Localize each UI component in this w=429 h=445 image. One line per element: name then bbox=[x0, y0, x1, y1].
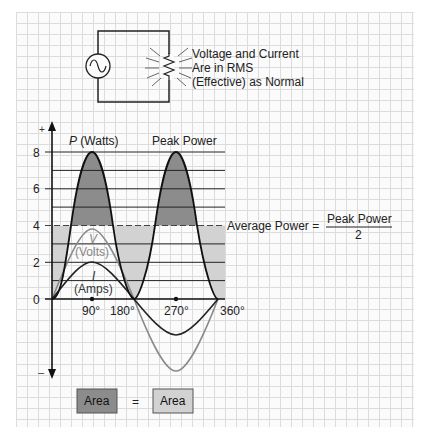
ac-source-icon bbox=[86, 54, 110, 78]
light-area-label: Area bbox=[160, 394, 186, 408]
area-legend: Area = Area bbox=[77, 389, 193, 413]
circuit-caption-line-1: Voltage and Current bbox=[192, 47, 299, 61]
x-tick-label-270: 270° bbox=[164, 304, 189, 318]
circuit-diagram: Voltage and Current Are in RMS (Effectiv… bbox=[86, 31, 304, 102]
peak-power-label: Peak Power bbox=[152, 134, 217, 148]
y-axis-plus: + bbox=[39, 124, 45, 135]
average-power-label: Average Power = bbox=[227, 219, 319, 233]
power-diagram: Voltage and Current Are in RMS (Effectiv… bbox=[0, 0, 429, 445]
y-axis-minus: – bbox=[38, 366, 45, 378]
current-label-unit: (Amps) bbox=[74, 282, 113, 296]
y-tick-0: 0 bbox=[33, 293, 40, 307]
y-tick-8: 8 bbox=[33, 146, 40, 160]
x-tick-label-360: 360° bbox=[220, 304, 245, 318]
x-tick-label-90: 90° bbox=[82, 304, 100, 318]
x-tick-270 bbox=[174, 297, 178, 301]
legend-equals: = bbox=[132, 395, 139, 409]
y-axis-up-arrow-icon bbox=[48, 121, 56, 131]
dark-area-label: Area bbox=[84, 394, 110, 408]
voltage-label-unit: (Volts) bbox=[75, 245, 109, 259]
voltage-label-symbol: V bbox=[89, 232, 98, 246]
y-tick-4: 4 bbox=[33, 219, 40, 233]
formula-denominator: 2 bbox=[355, 228, 362, 242]
formula-numerator: Peak Power bbox=[327, 212, 392, 226]
average-power-formula: Average Power = Peak Power 2 bbox=[227, 212, 392, 242]
circuit-caption-line-3: (Effective) as Normal bbox=[192, 75, 304, 89]
power-curve-label: P (Watts) bbox=[69, 134, 119, 148]
power-chart: + – 8 6 4 2 0 90° 180° 270° 360° P (Watt… bbox=[33, 121, 392, 379]
circuit-caption-line-2: Are in RMS bbox=[192, 61, 253, 75]
x-tick-label-180: 180° bbox=[110, 304, 135, 318]
y-tick-2: 2 bbox=[33, 256, 40, 270]
x-tick-90 bbox=[90, 297, 94, 301]
y-tick-6: 6 bbox=[33, 182, 40, 196]
y-axis-down-arrow-icon bbox=[48, 369, 56, 379]
